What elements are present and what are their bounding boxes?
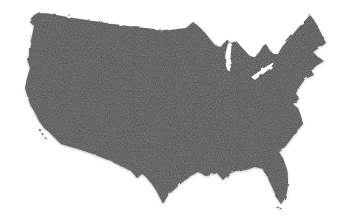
pacific-islands [39, 129, 46, 139]
us-landmass [25, 12, 326, 204]
us-map-image [0, 0, 351, 218]
map-canvas [0, 0, 351, 218]
florida-keys [277, 206, 282, 209]
us-map-group [25, 12, 326, 209]
